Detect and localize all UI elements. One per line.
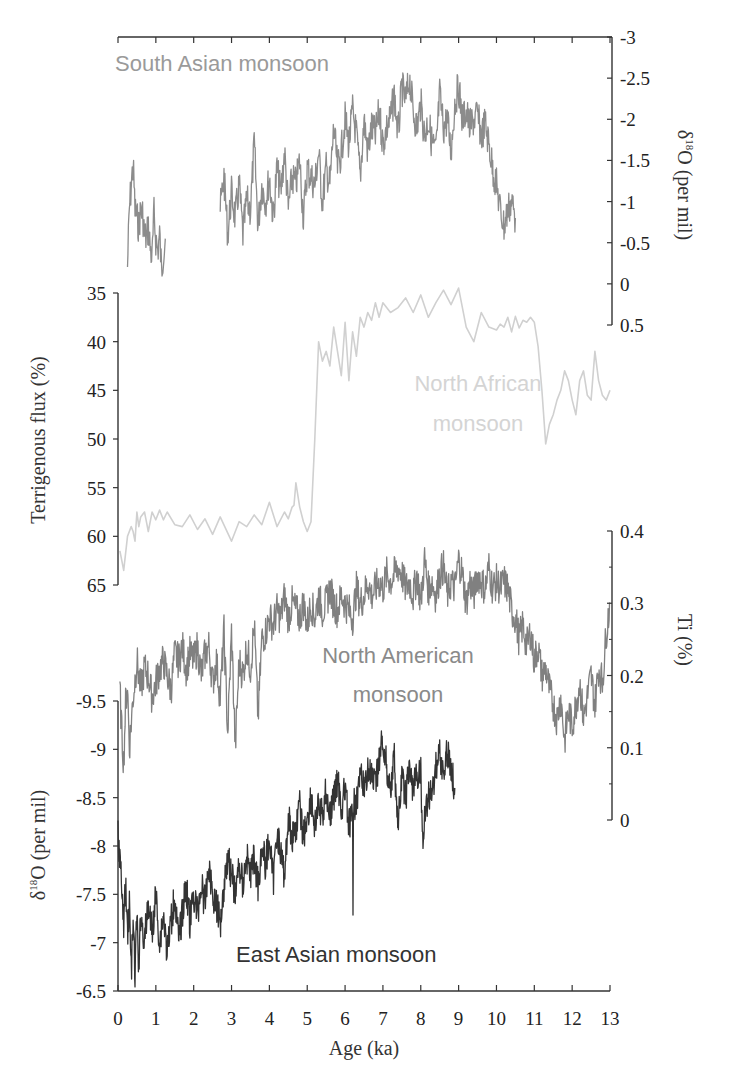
x-tick-label: 12 [563, 1008, 582, 1029]
left-upper-tick-label: 35 [87, 283, 106, 304]
series-layer [118, 73, 610, 987]
right-top-tick-label: 0 [620, 274, 630, 295]
north-african-monsoon-line [120, 288, 610, 570]
x-tick-label: 8 [416, 1008, 426, 1029]
x-tick-label: 7 [378, 1008, 388, 1029]
right-upper-axis-title: δ18O (per mil) [673, 130, 696, 240]
left-lower-axis-title: δ18O (per mil) [27, 790, 50, 900]
left-lower-tick-label: -9 [90, 739, 106, 760]
left-lower-tick-label: -7 [90, 933, 106, 954]
right-top-tick-label: -2.5 [620, 68, 650, 89]
left-upper-tick-label: 65 [87, 575, 106, 596]
x-tick-label: 10 [487, 1008, 506, 1029]
x-tick-label: 3 [227, 1008, 237, 1029]
left-lower-tick-label: -9.5 [76, 691, 106, 712]
left-upper-tick-label: 60 [87, 526, 106, 547]
x-tick-label: 5 [302, 1008, 312, 1029]
right-lower-tick-label: 0.2 [620, 666, 644, 687]
right-lower-tick-label: 0.1 [620, 738, 644, 759]
x-tick-label: 6 [340, 1008, 350, 1029]
right-top-tick-label: -1 [620, 192, 636, 213]
x-tick-label: 4 [265, 1008, 275, 1029]
x-tick-label: 2 [189, 1008, 199, 1029]
north-african-label-line2: monsoon [433, 411, 524, 436]
south-asian-label: South Asian monsoon [115, 51, 329, 76]
right-top-tick-label: 0.5 [620, 315, 644, 336]
x-axis-title: Age (ka) [329, 1037, 400, 1060]
monsoon-composite-chart: 012345678910111213-3-2.5-2-1.5-1-0.500.5… [0, 0, 729, 1072]
x-tick-label: 0 [113, 1008, 123, 1029]
right-lower-tick-label: 0 [620, 810, 630, 831]
right-lower-tick-label: 0.3 [620, 593, 644, 614]
right-top-tick-label: -0.5 [620, 233, 650, 254]
right-lower-tick-label: 0.4 [620, 521, 644, 542]
left-lower-tick-label: -8.5 [76, 788, 106, 809]
left-upper-tick-label: 50 [87, 429, 106, 450]
x-tick-label: 1 [151, 1008, 161, 1029]
right-lower-axis-title: Ti (%) [673, 614, 696, 666]
right-top-tick-label: -1.5 [620, 150, 650, 171]
east-asian-label: East Asian monsoon [236, 942, 437, 967]
north-american-label-line2: monsoon [353, 682, 444, 707]
left-upper-tick-label: 55 [87, 478, 106, 499]
left-upper-axis-title: Terrigenous flux (%) [27, 356, 50, 523]
left-lower-tick-label: -8 [90, 836, 106, 857]
left-lower-tick-label: -6.5 [76, 981, 106, 1002]
south-asian-monsoon-line [220, 73, 515, 245]
x-tick-label: 13 [601, 1008, 620, 1029]
north-american-label-line1: North American [322, 643, 474, 668]
left-lower-tick-label: -7.5 [76, 884, 106, 905]
south-asian-monsoon-line [128, 161, 166, 277]
right-top-tick-label: -3 [620, 27, 636, 48]
right-top-tick-label: -2 [620, 109, 636, 130]
axes-layer: 012345678910111213-3-2.5-2-1.5-1-0.500.5… [76, 27, 650, 1029]
north-african-label-line1: North African [414, 371, 541, 396]
left-upper-tick-label: 40 [87, 332, 106, 353]
x-tick-label: 9 [454, 1008, 464, 1029]
left-upper-tick-label: 45 [87, 380, 106, 401]
x-tick-label: 11 [525, 1008, 543, 1029]
